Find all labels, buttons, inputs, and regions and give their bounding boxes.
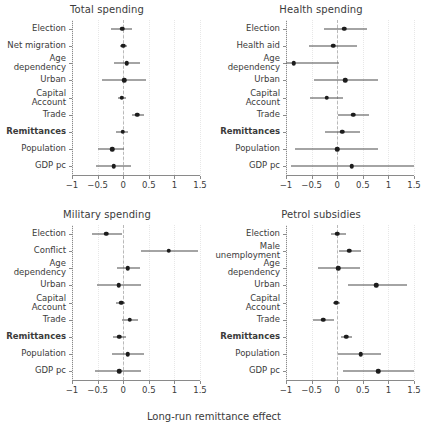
gridline xyxy=(414,20,415,175)
panel-title: Military spending xyxy=(0,209,214,220)
point-estimate xyxy=(331,44,336,49)
point-estimate xyxy=(359,352,364,357)
panel-title: Total spending xyxy=(0,4,214,15)
point-estimate xyxy=(343,78,348,83)
point-estimate xyxy=(347,249,352,254)
x-axis-tick xyxy=(72,381,73,384)
x-axis-tick-label: 0 xyxy=(334,385,339,395)
x-axis-tick xyxy=(363,381,364,384)
x-axis-tick-label: 0.5 xyxy=(356,385,370,395)
y-axis-tick xyxy=(283,149,286,150)
point-estimate xyxy=(117,369,122,374)
gridline xyxy=(174,20,175,175)
x-axis-tick-label: −1 xyxy=(280,180,293,190)
x-axis-tick-label: 0 xyxy=(334,180,339,190)
y-axis-label: GDP pc xyxy=(0,367,66,376)
gridline xyxy=(72,20,73,175)
y-axis-label: Capital Account xyxy=(0,293,66,311)
y-axis-tick xyxy=(283,98,286,99)
y-axis-label: Trade xyxy=(212,315,280,324)
y-axis-labels: ElectionNet migrationAge dependencyUrban… xyxy=(0,20,70,175)
x-axis-tick-label: 0.5 xyxy=(142,180,156,190)
x-axis-tick xyxy=(200,381,201,384)
plot-area: −1−0.500.511.5 xyxy=(72,225,200,380)
x-axis-tick xyxy=(149,176,150,179)
x-axis-title: Long-run remittance effect xyxy=(0,411,428,422)
gridline xyxy=(149,225,150,380)
x-axis-tick xyxy=(98,381,99,384)
y-axis-label: Trade xyxy=(0,315,66,324)
y-axis-tick xyxy=(69,115,72,116)
x-axis-tick xyxy=(149,381,150,384)
point-estimate xyxy=(167,249,172,254)
x-axis-tick-label: −1 xyxy=(66,385,79,395)
y-axis-tick xyxy=(283,46,286,47)
y-axis-tick xyxy=(69,98,72,99)
y-axis-label: GDP pc xyxy=(212,162,280,171)
y-axis-label: Election xyxy=(212,229,280,238)
gridline xyxy=(98,225,99,380)
y-axis-tick xyxy=(69,268,72,269)
y-axis-labels: ElectionHealth aidAge dependencyUrbanCap… xyxy=(214,20,284,175)
point-estimate xyxy=(116,283,121,288)
x-axis-tick-label: −0.5 xyxy=(87,180,108,190)
x-axis-tick xyxy=(337,381,338,384)
x-axis-tick xyxy=(414,176,415,179)
y-axis-label: Capital Account xyxy=(212,293,280,311)
point-estimate xyxy=(349,164,354,169)
y-axis-label: Remittances xyxy=(0,127,66,136)
forest-plot-figure: Total spendingElectionNet migrationAge d… xyxy=(0,0,428,435)
point-estimate xyxy=(128,317,133,322)
y-axis-label: Trade xyxy=(212,110,280,119)
gridline xyxy=(200,225,201,380)
y-axis-tick xyxy=(69,29,72,30)
y-axis-tick xyxy=(69,320,72,321)
y-axis-tick xyxy=(283,80,286,81)
x-axis-tick xyxy=(337,176,338,179)
x-axis-tick-label: 0 xyxy=(120,385,125,395)
point-estimate xyxy=(336,266,341,271)
gridline xyxy=(363,20,364,175)
point-estimate xyxy=(120,26,125,31)
gridline xyxy=(286,20,287,175)
gridline xyxy=(174,225,175,380)
point-estimate xyxy=(325,95,330,100)
y-axis-label: Remittances xyxy=(212,332,280,341)
plot-area: −1−0.500.511.5 xyxy=(72,20,200,175)
x-axis-tick xyxy=(123,381,124,384)
y-axis-label: Population xyxy=(0,145,66,154)
y-axis-tick xyxy=(283,29,286,30)
y-axis-tick xyxy=(69,234,72,235)
gridline xyxy=(286,225,287,380)
x-axis-tick-label: −1 xyxy=(66,180,79,190)
x-axis-tick xyxy=(414,381,415,384)
y-axis-tick xyxy=(283,132,286,133)
panel-total-spending: Total spendingElectionNet migrationAge d… xyxy=(0,0,214,205)
panel-health-spending: Health spendingElectionHealth aidAge dep… xyxy=(214,0,428,205)
y-axis-label: Health aid xyxy=(212,41,280,50)
x-axis-spine xyxy=(286,380,414,381)
gridline xyxy=(149,20,150,175)
y-axis-tick xyxy=(69,285,72,286)
point-estimate xyxy=(340,130,345,135)
gridline xyxy=(388,225,389,380)
y-axis-tick xyxy=(283,337,286,338)
y-axis-tick xyxy=(69,166,72,167)
y-axis-tick xyxy=(283,166,286,167)
panel-title: Petrol subsidies xyxy=(214,209,428,220)
point-estimate xyxy=(126,352,131,357)
y-axis-label: Conflict xyxy=(0,246,66,255)
point-estimate xyxy=(119,95,124,100)
panel-military-spending: Military spendingElectionConflictAge dep… xyxy=(0,205,214,410)
y-axis-tick xyxy=(69,149,72,150)
x-axis-tick-label: 1.5 xyxy=(193,385,207,395)
point-estimate xyxy=(120,130,125,135)
point-estimate xyxy=(335,147,340,152)
gridline xyxy=(98,20,99,175)
x-axis-tick-label: 1.5 xyxy=(407,180,421,190)
x-axis-tick-label: 1 xyxy=(386,180,391,190)
point-estimate xyxy=(119,300,124,305)
y-axis-label: Remittances xyxy=(212,127,280,136)
point-estimate xyxy=(342,26,347,31)
x-axis-tick-label: 1.5 xyxy=(193,180,207,190)
